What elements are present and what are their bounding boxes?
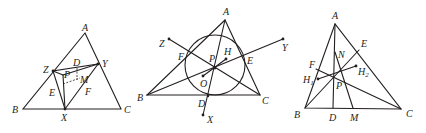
label-b: B (137, 92, 143, 103)
point-z (52, 70, 55, 73)
label-f: F (84, 86, 92, 97)
label-y: Y (282, 42, 289, 53)
label-o: O (200, 78, 207, 89)
point-p (214, 67, 217, 70)
label-p: P (335, 80, 342, 91)
label-d: D (197, 98, 206, 109)
label-f: F (177, 51, 185, 62)
label-x: X (60, 112, 68, 123)
label-h2: H2 (357, 66, 369, 79)
point-h2 (355, 65, 358, 68)
label-d: D (328, 112, 337, 123)
point-y (97, 63, 100, 66)
label-c: C (406, 108, 413, 119)
label-m: M (349, 112, 359, 123)
label-m: M (79, 74, 89, 85)
label-f: F (308, 59, 316, 70)
label-x: X (206, 114, 214, 125)
point-d (207, 95, 209, 97)
label-y: Y (102, 58, 109, 69)
label-p: P (208, 53, 215, 64)
triangle-abc (23, 33, 121, 109)
label-h: H (223, 46, 232, 57)
point-z (168, 38, 171, 41)
geometry-diagrams: A B C X Y Z D E F P M A B C D E F P H O … (0, 0, 426, 133)
label-h1: H1 (302, 74, 314, 87)
figure-3: A B C D M E F N P H1 H2 (294, 10, 413, 123)
label-a: A (222, 6, 230, 17)
point-y (282, 38, 285, 41)
label-p: P (63, 69, 70, 80)
label-a: A (81, 22, 89, 33)
label-d: D (72, 57, 81, 68)
label-e: E (246, 55, 253, 66)
label-c: C (262, 95, 269, 106)
point-x (202, 114, 205, 117)
label-e: E (360, 38, 367, 49)
label-n: N (337, 49, 346, 60)
point-h1 (317, 78, 320, 81)
figure-2: A B C D E F P H O X Y Z (137, 6, 289, 125)
label-b: B (12, 104, 18, 115)
label-e: E (48, 87, 55, 98)
label-b: B (294, 109, 300, 120)
point-x (64, 108, 67, 111)
label-c: C (124, 104, 131, 115)
figure-1: A B C X Y Z D E F P M (12, 22, 131, 123)
label-z: Z (43, 64, 49, 75)
point-o (202, 75, 205, 78)
label-z: Z (159, 38, 165, 49)
altitude-ad (333, 24, 335, 108)
label-a: A (331, 10, 339, 21)
point-h (225, 58, 228, 61)
